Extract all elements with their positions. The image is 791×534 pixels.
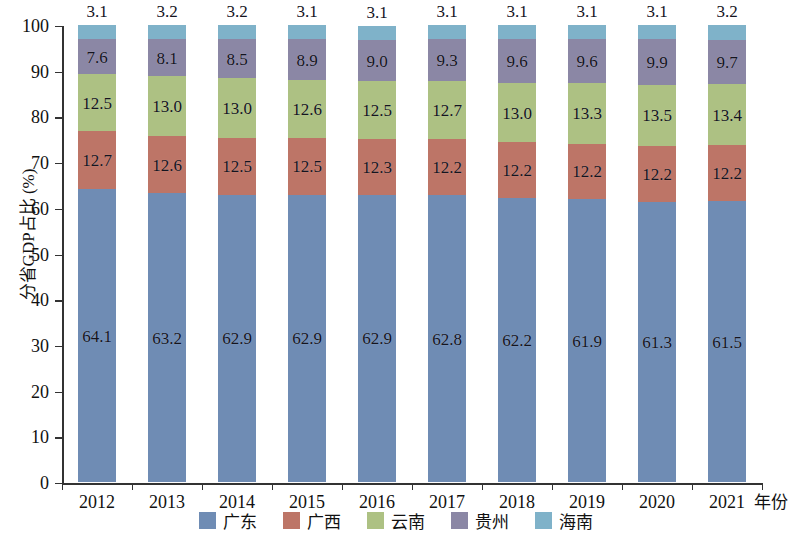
bar-segment[interactable]: 9.6 <box>498 39 536 83</box>
y-axis-tick <box>55 117 62 118</box>
bar-segment[interactable]: 9.6 <box>568 39 606 83</box>
bar-segment[interactable]: 62.9 <box>358 195 396 482</box>
bar-segment-label: 62.9 <box>362 330 392 347</box>
bar-segment-label: 3.1 <box>506 3 527 20</box>
bar-segment[interactable]: 13.5 <box>638 85 676 147</box>
y-axis-tick <box>55 163 62 164</box>
bar-segment[interactable]: 12.3 <box>358 139 396 195</box>
bar-segment[interactable]: 62.9 <box>288 195 326 482</box>
bar-segment[interactable]: 9.3 <box>428 39 466 82</box>
bar-segment-label: 61.5 <box>712 334 742 351</box>
y-axis-tick-label: 10 <box>3 428 49 446</box>
bar-segment-label: 3.1 <box>436 3 457 20</box>
bar-segment-label: 7.6 <box>86 49 107 66</box>
bar-segment[interactable]: 12.2 <box>428 139 466 195</box>
bar-segment[interactable]: 61.3 <box>638 202 676 482</box>
bar-segment[interactable]: 3.1 <box>498 25 536 39</box>
bar-segment[interactable]: 61.9 <box>568 199 606 482</box>
bar-column[interactable]: 3.28.113.012.663.2 <box>148 25 186 482</box>
bar-segment[interactable]: 13.0 <box>218 78 256 137</box>
bar-segment[interactable]: 62.8 <box>428 195 466 482</box>
bar-segment[interactable]: 3.1 <box>358 26 396 40</box>
bar-segment[interactable]: 13.0 <box>148 76 186 135</box>
bar-segment[interactable]: 3.1 <box>428 25 466 39</box>
bar-segment[interactable]: 12.5 <box>288 138 326 195</box>
bar-segment[interactable]: 3.1 <box>288 25 326 39</box>
bar-segment[interactable]: 12.7 <box>78 131 116 189</box>
bar-segment[interactable]: 3.1 <box>568 25 606 39</box>
legend-swatch-icon <box>451 512 468 529</box>
bar-segment[interactable]: 12.5 <box>218 138 256 195</box>
bar-column[interactable]: 3.17.612.512.764.1 <box>78 25 116 482</box>
x-axis-tick <box>132 483 133 490</box>
bar-segment-label: 12.7 <box>432 102 462 119</box>
bar-segment-label: 64.1 <box>82 328 112 345</box>
bar-segment[interactable]: 12.7 <box>428 81 466 139</box>
legend: 广东广西云南贵州海南 <box>0 508 791 533</box>
bar-column[interactable]: 3.19.312.712.262.8 <box>428 25 466 482</box>
bar-segment[interactable]: 8.9 <box>288 39 326 80</box>
legend-item[interactable]: 广西 <box>283 508 341 533</box>
x-axis-tick <box>482 483 483 490</box>
bar-segment[interactable]: 12.5 <box>358 81 396 138</box>
legend-label: 广西 <box>307 508 341 533</box>
bar-segment-label: 9.3 <box>436 52 457 69</box>
bar-column[interactable]: 3.18.912.612.562.9 <box>288 25 326 482</box>
bar-segment[interactable]: 62.2 <box>498 198 536 482</box>
bar-segment[interactable]: 3.2 <box>218 25 256 40</box>
bar-segment[interactable]: 12.2 <box>568 144 606 200</box>
bar-segment-label: 3.2 <box>226 3 247 20</box>
bar-segment-label: 12.2 <box>572 163 602 180</box>
legend-item[interactable]: 云南 <box>367 508 425 533</box>
y-axis-tick-label: 30 <box>3 337 49 355</box>
x-axis-tick <box>342 483 343 490</box>
bar-segment[interactable]: 3.2 <box>148 25 186 40</box>
bar-segment-label: 9.6 <box>576 53 597 70</box>
bar-segment-label: 9.7 <box>716 54 737 71</box>
bar-segment[interactable]: 7.6 <box>78 39 116 74</box>
bar-segment[interactable]: 8.5 <box>218 39 256 78</box>
bar-segment[interactable]: 13.4 <box>708 84 746 145</box>
bar-segment-label: 12.2 <box>432 159 462 176</box>
bar-column[interactable]: 3.28.513.012.562.9 <box>218 25 256 482</box>
bar-segment[interactable]: 8.1 <box>148 39 186 76</box>
bar-segment-label: 62.8 <box>432 331 462 348</box>
bar-segment[interactable]: 12.5 <box>78 74 116 131</box>
bar-column[interactable]: 3.29.713.412.261.5 <box>708 25 746 482</box>
bar-segment[interactable]: 9.7 <box>708 40 746 84</box>
legend-item[interactable]: 广东 <box>199 508 257 533</box>
bar-column[interactable]: 3.19.613.312.261.9 <box>568 25 606 482</box>
bar-column[interactable]: 3.19.913.512.261.3 <box>638 25 676 482</box>
legend-swatch-icon <box>199 512 216 529</box>
bar-segment-label: 9.0 <box>366 53 387 70</box>
bar-column[interactable]: 3.19.012.512.362.9 <box>358 26 396 482</box>
bar-segment[interactable]: 63.2 <box>148 193 186 482</box>
x-axis-tick <box>412 483 413 490</box>
bar-segment[interactable]: 12.6 <box>148 136 186 194</box>
y-axis-tick-label: 70 <box>3 154 49 172</box>
legend-item[interactable]: 海南 <box>535 508 593 533</box>
bar-segment[interactable]: 12.6 <box>288 80 326 138</box>
bar-segment[interactable]: 12.2 <box>638 146 676 202</box>
bar-segment-label: 13.3 <box>572 105 602 122</box>
legend-label: 海南 <box>559 508 593 533</box>
bar-segment[interactable]: 3.2 <box>708 25 746 40</box>
bar-segment[interactable]: 13.0 <box>498 83 536 142</box>
bar-segment[interactable]: 61.5 <box>708 201 746 482</box>
bar-segment[interactable]: 3.1 <box>78 25 116 39</box>
bar-segment[interactable]: 12.2 <box>708 145 746 201</box>
bar-segment[interactable]: 9.0 <box>358 40 396 81</box>
bar-column[interactable]: 3.19.613.012.262.2 <box>498 25 536 482</box>
bar-segment[interactable]: 9.9 <box>638 39 676 84</box>
legend-item[interactable]: 贵州 <box>451 508 509 533</box>
bar-segment-label: 12.5 <box>82 95 112 112</box>
legend-swatch-icon <box>283 512 300 529</box>
bar-segment-label: 9.9 <box>646 54 667 71</box>
bar-segment[interactable]: 3.1 <box>638 25 676 39</box>
bar-segment[interactable]: 64.1 <box>78 189 116 482</box>
bar-segment[interactable]: 13.3 <box>568 83 606 144</box>
y-axis-tick <box>55 209 62 210</box>
bar-segment[interactable]: 12.2 <box>498 142 536 198</box>
bar-segment-label: 12.5 <box>292 158 322 175</box>
bar-segment[interactable]: 62.9 <box>218 195 256 482</box>
